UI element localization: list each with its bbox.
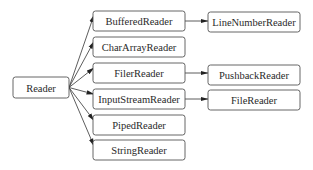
node-label: LineNumberReader — [212, 17, 296, 28]
edge-reader-to-chararrayreader — [69, 41, 94, 87]
node-filereader: FileReader — [208, 90, 300, 110]
edge-reader-to-pipedreader — [69, 88, 94, 121]
node-reader: Reader — [13, 77, 69, 98]
node-label: Reader — [26, 83, 56, 94]
node-filerreader: FilerReader — [93, 63, 185, 83]
nodes: ReaderBufferedReaderCharArrayReaderFiler… — [13, 11, 300, 160]
reader-class-diagram: ReaderBufferedReaderCharArrayReaderFiler… — [0, 0, 313, 170]
node-label: BufferedReader — [106, 16, 173, 27]
node-label: InputStreamReader — [98, 94, 180, 105]
node-chararrayreader: CharArrayReader — [93, 37, 185, 57]
node-label: PipedReader — [112, 120, 166, 131]
node-pipedreader: PipedReader — [93, 115, 185, 135]
node-pushbackreader: PushbackReader — [208, 65, 300, 85]
node-label: CharArrayReader — [102, 42, 177, 53]
node-linenumberreader: LineNumberReader — [208, 12, 300, 32]
node-inputstreamreader: InputStreamReader — [93, 89, 185, 109]
node-label: FileReader — [231, 95, 278, 106]
node-bufferedreader: BufferedReader — [93, 11, 185, 31]
edge-reader-to-stringreader — [69, 88, 94, 147]
node-label: PushbackReader — [219, 70, 289, 81]
node-label: FilerReader — [114, 68, 164, 79]
edge-reader-to-inputstreamreader — [69, 88, 94, 95]
node-label: StringReader — [111, 145, 167, 156]
edge-reader-to-bufferedreader — [69, 15, 94, 88]
node-stringreader: StringReader — [93, 140, 185, 160]
